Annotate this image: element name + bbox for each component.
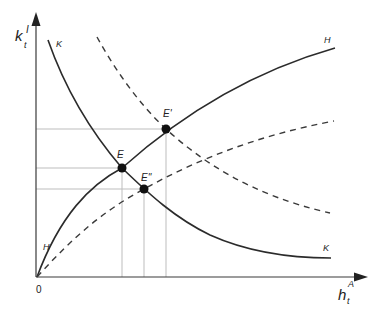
y-axis-arrow-icon [32,12,41,26]
y-axis-label: k [15,27,24,44]
point-e [118,164,127,173]
label-e: E [117,149,124,160]
x-axis-label: h [338,286,346,303]
x-axis-arrow-icon [354,273,368,282]
diagram-canvas: E E' E'' K K H H k I t h A t 0 [0,0,383,317]
label-e-prime: E' [163,108,173,119]
curve-k-shifted [97,37,330,213]
y-axis-label-sup: I [26,24,29,35]
point-e-prime [162,125,171,134]
origin-label: 0 [36,284,42,295]
point-e-double-prime [140,185,149,194]
label-e-double-prime: E'' [141,172,153,183]
x-axis-label-sup: A [347,279,354,289]
y-axis-label-sub: t [24,40,27,50]
label-k-top: K [56,39,63,49]
label-h-bottom: H [43,242,50,252]
label-k-bottom: K [323,243,330,253]
x-axis-label-sub: t [347,296,350,306]
curve-h [37,48,335,277]
label-h-top: H [324,35,331,45]
